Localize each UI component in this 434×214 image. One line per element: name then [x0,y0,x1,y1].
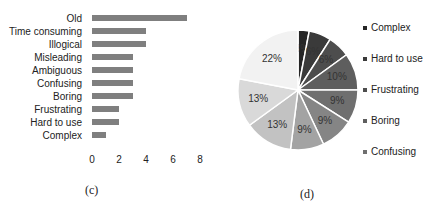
bar-row: Frustrating [0,103,220,116]
legend-item: Hard to use [363,53,423,64]
pie-chart-caption: (d) [300,187,314,202]
bar-label: Hard to use [30,116,82,129]
pie-slice-label: 6% [319,54,334,65]
x-tick-label: 6 [163,154,183,165]
pie-chart-panel: 3%6%6%10%9%9%9%13%13%22% ComplexHard to … [220,0,434,214]
legend-label: Complex [371,22,410,33]
bar [92,80,133,86]
legend-label: Boring [371,115,400,126]
pie-slice-label: 9% [330,95,345,106]
bar-row: Ambiguous [0,64,220,77]
legend-label: Hard to use [371,53,423,64]
bar-label: Complex [43,129,82,142]
legend-item: Confusing [363,146,416,157]
bar [92,106,119,112]
legend-label: Confusing [371,146,416,157]
legend-swatch-icon [363,57,367,61]
bar [92,119,119,125]
bar-row: Boring [0,90,220,103]
legend-item: Boring [363,115,400,126]
bar [92,67,133,73]
legend-item: Frustrating [363,84,419,95]
bar-row: Hard to use [0,116,220,129]
bar [92,93,133,99]
legend-swatch-icon [363,26,367,30]
x-tick-label: 4 [136,154,156,165]
x-tick-label: 0 [82,154,102,165]
bar-row: Old [0,12,220,25]
bar-row: Misleading [0,51,220,64]
bar-label: Time consuming [9,25,82,38]
legend-label: Frustrating [371,84,419,95]
pie-slice-label: 13% [248,93,268,104]
bar-label: Frustrating [34,103,82,116]
bar-row: Time consuming [0,25,220,38]
bar-label: Boring [53,90,82,103]
bar-row: Confusing [0,77,220,90]
bar [92,41,146,47]
bar [92,15,187,21]
bar [92,28,146,34]
x-tick-label: 2 [109,154,129,165]
pie-slice-label: 10% [327,71,347,82]
bar [92,54,133,60]
bar-label: Illogical [49,38,82,51]
pie-slice-label: 9% [297,124,312,135]
pie-slice-label: 22% [262,53,282,64]
bar-label: Misleading [34,51,82,64]
bar-chart-caption: (c) [85,183,98,198]
bar-chart-panel: OldTime consumingIllogicalMisleadingAmbi… [0,0,220,214]
bar-label: Old [66,12,82,25]
legend-item: Complex [363,22,410,33]
legend-swatch-icon [363,119,367,123]
bar-row: Complex [0,129,220,142]
bar-label: Confusing [37,77,82,90]
bar-label: Ambiguous [32,64,82,77]
legend-swatch-icon [363,150,367,154]
bar-row: Illogical [0,38,220,51]
bar [92,132,106,138]
pie-slice-label: 9% [318,115,333,126]
x-tick-label: 8 [190,154,210,165]
pie-slice-label: 13% [267,119,287,130]
legend-swatch-icon [363,88,367,92]
